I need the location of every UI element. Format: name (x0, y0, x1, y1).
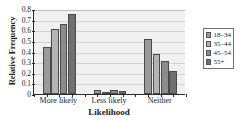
y-tick-label: 0.1 (22, 81, 31, 89)
x-tick-label: Neither (148, 96, 172, 106)
y-tick-label: 0.7 (22, 17, 31, 25)
legend-label: 55+ (214, 59, 225, 66)
y-axis-tick-labels: 00.10.20.30.40.50.60.70.8 (14, 10, 31, 95)
legend-item: 18–34 (206, 31, 232, 40)
legend-item: 45–54 (206, 49, 232, 58)
y-tick-label: 0.8 (22, 6, 31, 14)
x-tick-label: Less likely (92, 96, 127, 106)
legend-label: 18–34 (214, 32, 232, 39)
plot-area (33, 10, 185, 95)
bar (169, 71, 177, 94)
bar-chart: Relative Frequency 00.10.20.30.40.50.60.… (0, 0, 251, 121)
bar (144, 39, 152, 94)
y-tick-label: 0.6 (22, 28, 31, 36)
legend-swatch-icon (206, 32, 212, 38)
legend-swatch-icon (206, 50, 212, 56)
bar (161, 61, 169, 94)
y-tick-label: 0.5 (22, 38, 31, 46)
x-tick-mark (186, 94, 187, 97)
chart-title (0, 0, 190, 2)
legend: 18–3435–4445–5455+ (203, 28, 234, 69)
legend-label: 35–44 (214, 41, 232, 48)
y-tick-label: 0.4 (22, 49, 31, 57)
legend-swatch-icon (206, 59, 212, 65)
x-axis-label: Likelihood (33, 107, 185, 117)
y-tick-label: 0.3 (22, 59, 31, 67)
bar-group (34, 10, 186, 94)
legend-item: 35–44 (206, 40, 232, 49)
x-tick-label: More likely (40, 96, 78, 106)
legend-item: 55+ (206, 58, 232, 67)
legend-label: 45–54 (214, 50, 232, 57)
y-tick-label: 0.2 (22, 70, 31, 78)
bar (153, 54, 161, 94)
legend-swatch-icon (206, 41, 212, 47)
y-tick-label: 0 (27, 91, 31, 99)
